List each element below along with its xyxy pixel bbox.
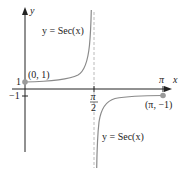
y-axis-arrow-icon — [22, 7, 28, 15]
tick-pi-label: π — [159, 74, 165, 85]
point-origin-marker — [22, 79, 28, 85]
tick-pi-half-numerator: π — [91, 91, 97, 102]
y-axis-label: y — [29, 5, 35, 16]
point-pi-label: (π, −1) — [145, 99, 172, 111]
tick-pi-half-denominator: 2 — [91, 102, 96, 113]
secant-graph: y x 1 −1 π 2 π (0, 1) (π, −1) y = Sec(x)… — [0, 0, 186, 172]
x-axis-label: x — [172, 74, 178, 85]
curve-right-label: y = Sec(x) — [102, 131, 144, 143]
point-origin-label: (0, 1) — [28, 69, 50, 81]
x-axis-arrow-icon — [164, 86, 172, 92]
point-pi-marker — [160, 93, 166, 99]
curve-left-label: y = Sec(x) — [42, 25, 84, 37]
tick-one-label: 1 — [16, 76, 21, 87]
tick-neg-one-label: −1 — [9, 90, 20, 101]
